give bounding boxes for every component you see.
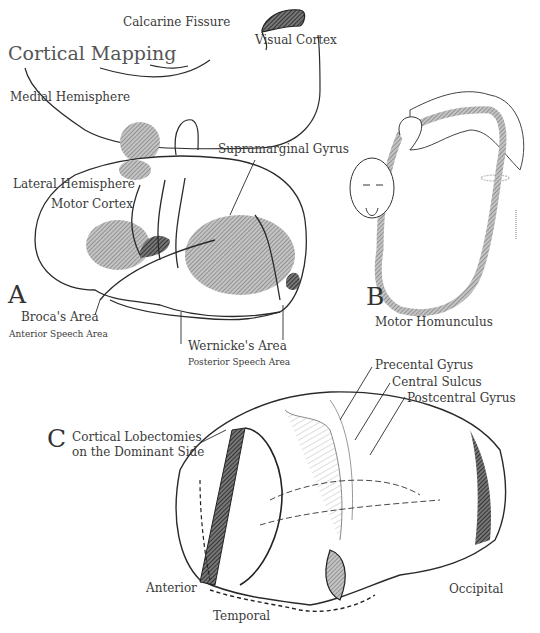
medial-motor-area — [120, 122, 160, 162]
label-lobectomies-line1: Cortical Lobectomies — [72, 431, 202, 443]
label-temporal: Temporal — [213, 610, 270, 622]
wernickes-area-shape — [185, 215, 295, 295]
lobectomy-brain-drawing — [176, 392, 505, 611]
label-anterior-speech-area: Anterior Speech Area — [9, 330, 108, 339]
label-brocas-area: Broca's Area — [21, 311, 99, 323]
panel-letter-b: B — [366, 284, 384, 309]
medial-hemisphere-drawing — [25, 10, 320, 149]
label-occipital: Occipital — [449, 583, 503, 595]
panel-letter-a: A — [8, 282, 26, 307]
brocas-area-shape — [86, 220, 150, 270]
label-central-sulcus: Central Sulcus — [392, 376, 482, 388]
homunculus-drawing — [350, 92, 524, 313]
label-medial-hemisphere: Medial Hemisphere — [10, 91, 130, 103]
label-posterior-speech-area: Posterior Speech Area — [188, 358, 290, 367]
label-motor-cortex: Motor Cortex — [51, 198, 133, 210]
label-anterior: Anterior — [146, 582, 197, 594]
label-postcentral-gyrus: Postcentral Gyrus — [407, 392, 516, 404]
label-supramarginal-gyrus: Supramarginal Gyrus — [218, 143, 349, 155]
label-visual-cortex: Visual Cortex — [255, 34, 337, 46]
label-wernickes-area: Wernicke's Area — [188, 340, 287, 352]
calcarine-fissure-shape — [262, 10, 305, 32]
figure-title: Cortical Mapping — [8, 44, 176, 63]
label-precentral-gyrus: Precental Gyrus — [375, 359, 473, 371]
label-calcarine-fissure: Calcarine Fissure — [123, 16, 230, 28]
label-lateral-hemisphere: Lateral Hemisphere — [13, 178, 135, 190]
medial-paracentral-lobule — [175, 120, 198, 155]
label-motor-homunculus: Motor Homunculus — [375, 316, 493, 328]
label-lobectomies-line2: on the Dominant Side — [72, 446, 204, 458]
panel-letter-c: C — [47, 426, 66, 451]
